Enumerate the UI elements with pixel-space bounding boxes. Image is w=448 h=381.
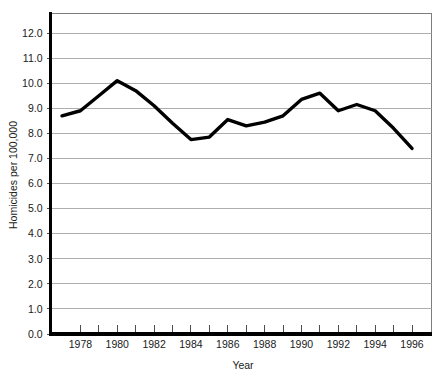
y-tick-label: 8.0	[28, 127, 43, 139]
y-tick-label: 1.0	[28, 303, 43, 315]
x-tick-label: 1978	[69, 338, 93, 350]
x-tick-label: 1996	[400, 338, 424, 350]
y-tick-label: 0.0	[28, 328, 43, 340]
y-tick-label: 3.0	[28, 253, 43, 265]
y-tick-label: 6.0	[28, 177, 43, 189]
line-chart: 0.01.02.03.04.05.06.07.08.09.010.011.012…	[0, 0, 448, 381]
x-tick-label: 1992	[327, 338, 351, 350]
chart-background	[0, 0, 448, 381]
y-tick-label: 11.0	[23, 52, 43, 64]
x-tick-label: 1984	[179, 338, 203, 350]
y-tick-label: 4.0	[28, 227, 43, 239]
y-tick-label: 5.0	[28, 202, 43, 214]
y-tick-label: 2.0	[28, 278, 43, 290]
y-tick-label: 7.0	[28, 152, 43, 164]
y-tick-label: 10.0	[22, 77, 43, 89]
y-axis-title: Homicides per 100,000	[7, 121, 19, 229]
x-tick-label: 1990	[290, 338, 314, 350]
x-axis-title: Year	[232, 359, 254, 371]
y-tick-label: 9.0	[28, 102, 43, 114]
x-tick-label: 1994	[363, 338, 387, 350]
y-tick-label: 12.0	[22, 27, 43, 39]
x-tick-label: 1986	[216, 338, 240, 350]
x-tick-label: 1980	[106, 338, 130, 350]
x-tick-label: 1982	[142, 338, 166, 350]
chart-container: 0.01.02.03.04.05.06.07.08.09.010.011.012…	[0, 0, 448, 381]
x-tick-label: 1988	[253, 338, 277, 350]
